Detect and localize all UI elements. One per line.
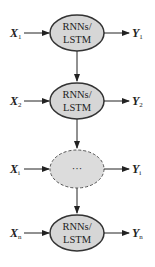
svg-text:Yn: Yn: [132, 226, 143, 241]
node-2: RNNs/ LSTM: [50, 83, 104, 119]
svg-text:Xn: Xn: [9, 226, 22, 241]
output-y2: Y2: [104, 94, 143, 109]
input-x2: X2: [9, 94, 49, 109]
svg-text:Y2: Y2: [132, 94, 143, 109]
output-yn: Yn: [104, 226, 143, 241]
input-xn: Xn: [9, 226, 49, 241]
input-x1: X1: [9, 26, 49, 41]
svg-text:Xi: Xi: [9, 162, 20, 177]
svg-text:Yi: Yi: [132, 162, 141, 177]
node-n: RNNs/ LSTM: [50, 215, 104, 251]
node-1-label-line1: RNNs/: [62, 21, 91, 32]
node-n-label-line2: LSTM: [63, 234, 92, 245]
input-xi: Xi: [9, 162, 49, 177]
node-2-label-line2: LSTM: [63, 102, 92, 113]
rnn-lstm-diagram: RNNs/ LSTM X1 Y1 RNNs/ LSTM X2 Y2 ··· Xi…: [0, 0, 155, 267]
node-1-label-line2: LSTM: [63, 34, 92, 45]
node-1: RNNs/ LSTM: [50, 15, 104, 51]
svg-text:X2: X2: [9, 94, 22, 109]
node-n-label-line1: RNNs/: [62, 221, 91, 232]
output-yi: Yi: [104, 162, 141, 177]
output-y1: Y1: [104, 26, 143, 41]
node-i: ···: [50, 150, 104, 188]
svg-text:X1: X1: [9, 26, 22, 41]
node-i-ellipsis: ···: [72, 163, 83, 174]
node-2-label-line1: RNNs/: [62, 89, 91, 100]
svg-text:Y1: Y1: [132, 26, 143, 41]
